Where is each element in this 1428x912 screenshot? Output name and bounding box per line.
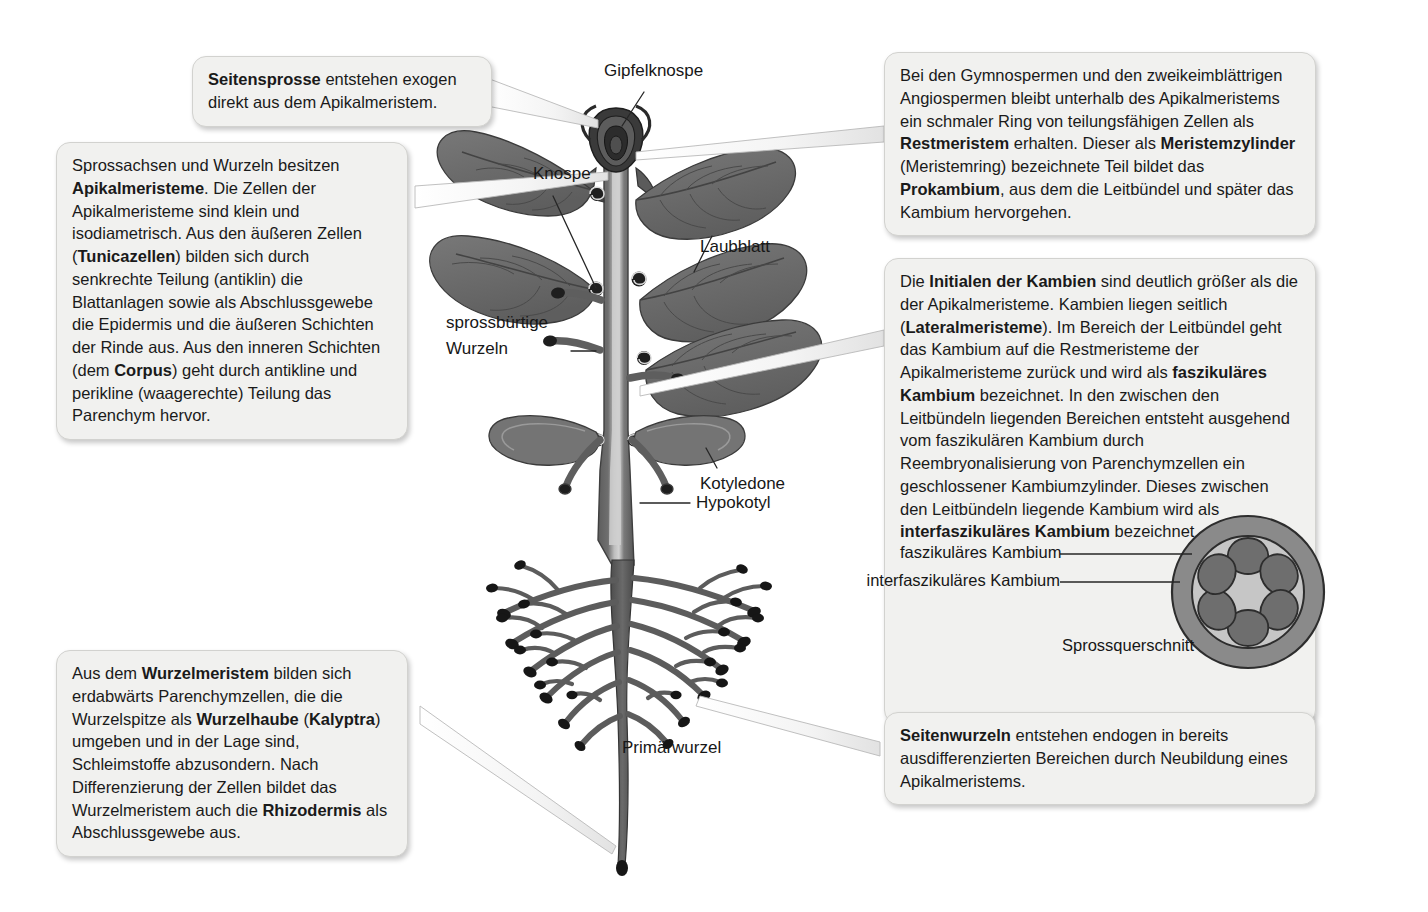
seg: Aus dem bbox=[72, 664, 142, 682]
label-primaerwurzel: Primärwurzel bbox=[622, 737, 721, 758]
seg-bold: Kalyptra bbox=[309, 710, 375, 728]
seg: ) bilden sich durch senkrechte Teilung (… bbox=[72, 247, 380, 379]
seg-bold: Initialen der Kambien bbox=[929, 272, 1096, 290]
seg-bold: Apikalmeristeme bbox=[72, 179, 204, 197]
stem-group bbox=[598, 150, 634, 565]
seg: ( bbox=[299, 710, 309, 728]
figure-canvas: Gipfelknospe Knospe Laubblatt sprossbürt… bbox=[0, 0, 1428, 912]
seg-bold: Corpus bbox=[114, 361, 172, 379]
seg-bold: Seitenwurzeln bbox=[900, 726, 1011, 744]
xsec-label-faszikulaeres-kambium: faszikuläres Kambium bbox=[900, 543, 1060, 562]
seg-bold: Prokambium bbox=[900, 180, 1000, 198]
callout-apikalmeristeme: Sprossachsen und Wurzeln besitzen Apikal… bbox=[56, 142, 408, 440]
seg-bold: Lateralmeristeme bbox=[906, 318, 1043, 336]
seg: erhalten. Dieser als bbox=[1009, 134, 1160, 152]
label-knospe: Knospe bbox=[533, 163, 591, 184]
xsec-leader-lines bbox=[1060, 540, 1220, 620]
seg-bold: Tunicazellen bbox=[78, 247, 176, 265]
seg-bold: Restmeristem bbox=[900, 134, 1009, 152]
callout-seitensprosse: Seitensprosse entstehen exogen direkt au… bbox=[192, 56, 492, 127]
xsec-label-interfaszikulaeres-kambium: interfaszikuläres Kambium bbox=[840, 571, 1060, 590]
root-system bbox=[485, 559, 772, 876]
label-sprossbuertige-wurzeln-line1: sprossbürtige bbox=[446, 312, 548, 333]
callout-seitenwurzeln: Seitenwurzeln entstehen endogen in berei… bbox=[884, 712, 1316, 805]
label-laubblatt: Laubblatt bbox=[700, 236, 770, 257]
xsec-caption: Sprossquerschnitt bbox=[1038, 636, 1218, 655]
seg-bold: Wurzelmeristem bbox=[142, 664, 269, 682]
seg: Die bbox=[900, 272, 929, 290]
label-gipfelknospe: Gipfelknospe bbox=[604, 60, 703, 81]
seg-bold: Wurzelhaube bbox=[196, 710, 298, 728]
callout-gymnospermen-restmeristem: Bei den Gymnospermen und den zweikeimblä… bbox=[884, 52, 1316, 236]
seg-bold: interfaszikuläres Kambium bbox=[900, 522, 1110, 540]
callout-seitensprosse-term: Seitensprosse bbox=[208, 70, 321, 88]
seg: Sprossachsen und Wurzeln besitzen bbox=[72, 156, 340, 174]
seg-bold: Rhizodermis bbox=[262, 801, 361, 819]
label-hypokotyl: Hypokotyl bbox=[696, 492, 771, 513]
callout-wurzelmeristem: Aus dem Wurzelmeristem bilden sich erdab… bbox=[56, 650, 408, 857]
seg: Bei den Gymnospermen und den zweikeimblä… bbox=[900, 66, 1282, 130]
seg-bold: Meristemzylinder bbox=[1160, 134, 1295, 152]
seg: bezeichnet. In den zwischen den Leitbünd… bbox=[900, 386, 1290, 518]
seg: (Meristemring) bezeichnete Teil bildet d… bbox=[900, 157, 1204, 175]
label-sprossbuertige-wurzeln-line2: Wurzeln bbox=[446, 338, 508, 359]
